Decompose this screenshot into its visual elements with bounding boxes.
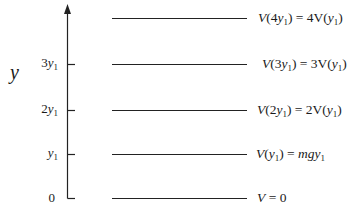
level-3-equation: V(3y1) = 3V(y1) xyxy=(262,57,347,71)
level-1-equation: V(y1) = mgy1 xyxy=(256,147,325,161)
level-0-equation: V = 0 xyxy=(257,191,286,205)
tick-label-2: 2y1 xyxy=(28,102,58,115)
tick-label-3: 3y1 xyxy=(28,56,58,69)
tick-label-1: y1 xyxy=(28,146,58,159)
y-axis-label: y xyxy=(10,62,19,82)
axis-arrow-icon xyxy=(64,4,71,14)
level-4-equation: V(4y1) = 4V(y1) xyxy=(258,11,343,25)
level-2-equation: V(2y1) = 2V(y1) xyxy=(257,103,342,117)
tick-label-0: 0 xyxy=(28,191,55,204)
